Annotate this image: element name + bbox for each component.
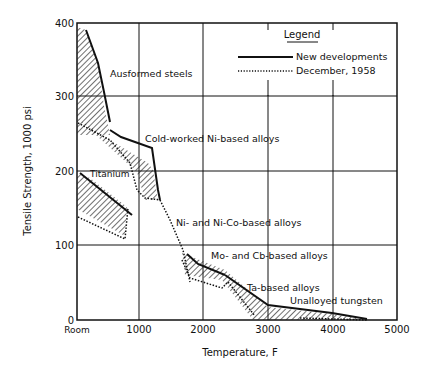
svg-text:5000: 5000 <box>384 324 409 335</box>
legend-entry-1958: December, 1958 <box>296 65 375 76</box>
svg-text:3000: 3000 <box>255 324 280 335</box>
label-cold-worked: Cold-worked Ni-based alloys <box>145 133 279 144</box>
legend-title: Legend <box>284 29 321 40</box>
svg-text:Room: Room <box>64 325 90 335</box>
legend-entry-new: New developments <box>296 51 387 62</box>
svg-text:2000: 2000 <box>190 324 215 335</box>
svg-text:200: 200 <box>55 166 74 177</box>
svg-text:1000: 1000 <box>126 324 151 335</box>
label-mo-cb: Mo- and Cb-based alloys <box>211 250 328 261</box>
svg-text:4000: 4000 <box>320 324 345 335</box>
y-axis-ticks: 400 300 200 100 0 <box>55 18 74 326</box>
y-axis-label: Tensile Strength, 1000 psi <box>22 106 33 237</box>
label-ni-co: Ni- and Ni-Co-based alloys <box>176 217 302 228</box>
x-axis-ticks: Room 1000 2000 3000 4000 5000 <box>64 324 410 335</box>
label-ausformed-steels: Ausformed steels <box>110 68 193 79</box>
svg-text:300: 300 <box>55 91 74 102</box>
svg-text:400: 400 <box>55 18 74 29</box>
tensile-strength-chart: Legend New developments December, 1958 A… <box>0 0 429 373</box>
svg-text:100: 100 <box>55 240 74 251</box>
label-tungsten: Unalloyed tungsten <box>290 295 383 306</box>
x-axis-label: Temperature, F <box>201 347 278 358</box>
region-labels: Ausformed steels Cold-worked Ni-based al… <box>89 68 383 306</box>
label-titanium: Titanium <box>89 169 129 179</box>
label-ta: Ta-based alloys <box>246 282 320 293</box>
